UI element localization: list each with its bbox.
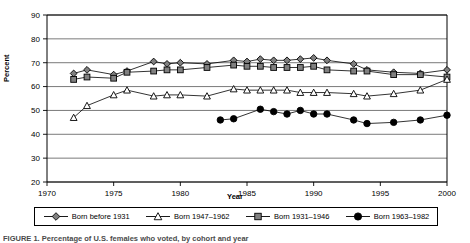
y-axis-tick-label: 90 (31, 11, 40, 20)
data-point-square (124, 69, 130, 75)
data-point-square (204, 65, 210, 71)
series-triangle (70, 76, 450, 120)
data-point-triangle (417, 87, 424, 93)
data-point-circle (364, 120, 370, 126)
legend-label: Born 1931–1946 (274, 212, 329, 221)
data-point-square (284, 65, 290, 71)
data-point-square (271, 65, 277, 71)
y-axis-tick-label: 30 (31, 154, 40, 163)
data-point-circle (270, 108, 276, 114)
legend-label: Born 1963–1982 (374, 212, 429, 221)
legend-item-square[interactable]: Born 1931–1946 (245, 211, 329, 222)
y-axis-tick-label: 60 (31, 82, 40, 91)
data-point-diamond (84, 66, 91, 73)
legend-item-diamond[interactable]: Born before 1931 (43, 211, 130, 222)
data-point-square (244, 63, 250, 69)
data-point-square (257, 63, 263, 69)
line-chart: 2030405060708090197019751980198519901995… (0, 0, 470, 200)
legend-label: Born 1947–1962 (174, 212, 229, 221)
y-axis-tick-label: 40 (31, 130, 40, 139)
data-point-diamond (350, 61, 357, 68)
series-square (71, 62, 450, 82)
data-point-circle (417, 117, 423, 123)
x-axis-title-text: Year (227, 192, 243, 201)
data-point-circle (257, 106, 263, 112)
data-point-diamond (70, 70, 77, 77)
x-axis-title: Year (0, 192, 470, 201)
data-point-square (151, 68, 157, 74)
data-point-square (71, 77, 77, 83)
y-axis-tick-label: 50 (31, 106, 40, 115)
data-point-circle (390, 119, 396, 125)
legend-marker-triangle-icon (145, 211, 171, 222)
legend-item-circle[interactable]: Born 1963–1982 (345, 211, 429, 222)
legend-label: Born before 1931 (72, 212, 130, 221)
series-circle (217, 106, 450, 127)
y-axis-title: Percent (2, 54, 11, 82)
data-point-square (311, 63, 317, 69)
data-point-square (255, 213, 261, 219)
data-point-circle (444, 112, 450, 118)
data-point-diamond (164, 61, 171, 68)
legend-marker-square-icon (245, 211, 271, 222)
data-point-triangle (84, 102, 91, 108)
data-point-diamond (177, 59, 184, 66)
data-point-circle (354, 213, 361, 220)
data-point-diamond (444, 66, 451, 73)
data-point-square (364, 68, 370, 74)
data-point-diamond (52, 213, 60, 221)
data-point-circle (230, 116, 236, 122)
y-axis-tick-label: 20 (31, 178, 40, 187)
data-point-square (391, 72, 397, 78)
data-point-square (231, 62, 237, 68)
legend-item-triangle[interactable]: Born 1947–1962 (145, 211, 229, 222)
data-point-circle (217, 117, 223, 123)
data-point-circle (297, 107, 303, 113)
data-point-square (84, 74, 90, 80)
data-point-square (111, 75, 117, 81)
chart-legend: Born before 1931Born 1947–1962Born 1931–… (34, 207, 438, 226)
series-line (220, 109, 447, 123)
data-point-diamond (150, 58, 157, 65)
data-point-circle (350, 117, 356, 123)
data-point-diamond (297, 56, 304, 63)
data-point-circle (310, 111, 316, 117)
data-point-square (297, 65, 303, 71)
data-point-diamond (257, 56, 264, 63)
figure-container: 2030405060708090197019751980198519901995… (0, 0, 470, 243)
legend-marker-diamond-icon (43, 211, 69, 222)
y-axis-title-text: Percent (2, 54, 11, 82)
data-point-diamond (310, 55, 317, 62)
data-point-circle (324, 111, 330, 117)
legend-marker-circle-icon (345, 211, 371, 222)
data-point-square (177, 67, 183, 73)
y-axis-tick-label: 80 (31, 35, 40, 44)
data-point-triangle (124, 87, 131, 93)
data-point-square (351, 68, 357, 74)
y-axis-tick-label: 70 (31, 59, 40, 68)
data-point-square (324, 67, 330, 73)
data-point-circle (284, 111, 290, 117)
figure-caption: FIGURE 1. Percentage of U.S. females who… (3, 233, 467, 243)
data-point-triangle (110, 92, 117, 98)
chart-plot-area: 2030405060708090197019751980198519901995… (0, 0, 470, 200)
data-point-square (164, 67, 170, 73)
data-point-square (417, 72, 423, 78)
